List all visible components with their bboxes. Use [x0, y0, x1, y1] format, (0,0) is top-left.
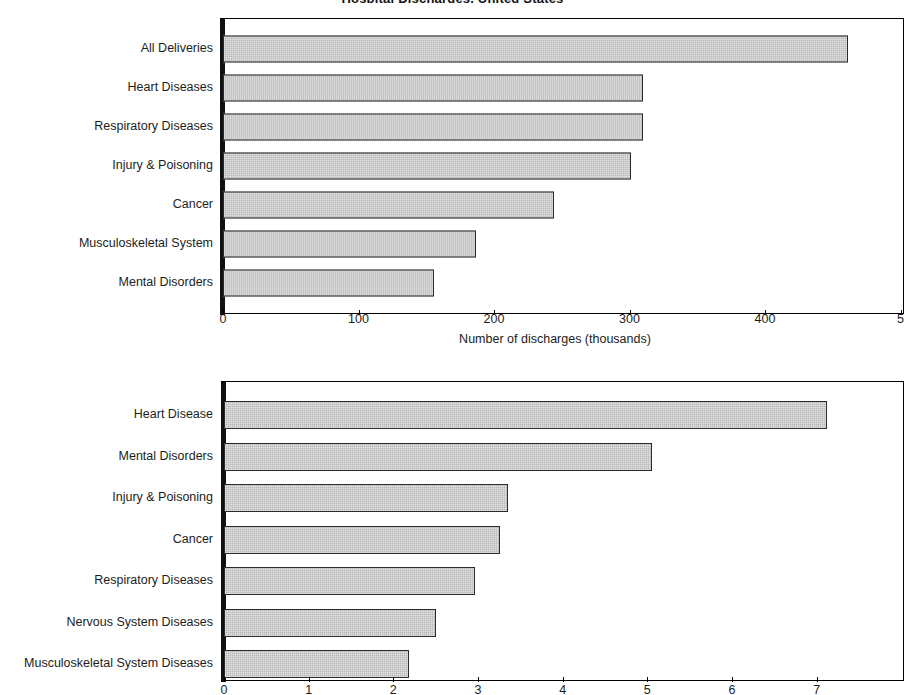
x-axis-tick-label: 2	[390, 683, 397, 695]
x-axis-tick-label: 400	[755, 312, 776, 326]
bar	[223, 36, 848, 63]
chart-discharges-x-axis-title: Number of discharges (thousands)	[459, 332, 651, 346]
x-axis-tick-label: 6	[729, 683, 736, 695]
category-label: Injury & Poisoning	[0, 159, 213, 172]
bar	[224, 526, 500, 554]
x-axis-tick	[478, 677, 479, 682]
x-axis-tick-label: 200	[484, 312, 505, 326]
category-label: Respiratory Diseases	[0, 574, 213, 587]
x-axis-tick-label: 300	[619, 312, 640, 326]
bar	[223, 231, 476, 258]
category-label: Mental Disorders	[0, 276, 213, 289]
bar	[223, 153, 631, 180]
bar	[224, 443, 652, 471]
x-axis-tick	[647, 677, 648, 682]
category-label: Cancer	[0, 532, 213, 545]
page-title: Hospital Discharges, United States	[0, 0, 905, 3]
x-axis-tick	[817, 677, 818, 682]
x-axis-tick	[224, 677, 225, 682]
bar	[223, 75, 643, 102]
x-axis-tick-label: 0	[220, 312, 227, 326]
x-axis-tick	[393, 677, 394, 682]
x-axis-tick-label: 1	[305, 683, 312, 695]
category-label: Respiratory Diseases	[0, 120, 213, 133]
x-axis-tick-label: 3	[475, 683, 482, 695]
x-axis-tick	[732, 677, 733, 682]
bar	[223, 114, 643, 141]
x-axis-tick-label: 4	[559, 683, 566, 695]
bar	[224, 567, 475, 595]
category-label: Heart Disease	[0, 408, 213, 421]
x-axis-tick-label: 0	[221, 683, 228, 695]
chart-days-of-care-plot-area	[221, 381, 904, 681]
category-label: Musculoskeletal System	[0, 237, 213, 250]
bar	[224, 609, 436, 637]
bar	[224, 650, 409, 678]
x-axis-tick-label: 5	[897, 312, 904, 326]
x-axis-tick-label: 5	[644, 683, 651, 695]
bar	[224, 484, 508, 512]
x-axis-tick-label: 100	[348, 312, 369, 326]
x-axis-tick	[563, 677, 564, 682]
bar	[223, 270, 434, 297]
category-label: Nervous System Diseases	[0, 615, 213, 628]
bar	[224, 401, 827, 429]
category-label: Heart Diseases	[0, 81, 213, 94]
x-axis-tick	[309, 677, 310, 682]
category-label: Injury & Poisoning	[0, 491, 213, 504]
category-label: Mental Disorders	[0, 449, 213, 462]
category-label: All Deliveries	[0, 42, 213, 55]
category-label: Cancer	[0, 198, 213, 211]
bar	[223, 192, 554, 219]
x-axis-tick-label: 7	[813, 683, 820, 695]
category-label: Musculoskeletal System Diseases	[0, 657, 213, 670]
chart-discharges-plot-area	[220, 18, 904, 314]
